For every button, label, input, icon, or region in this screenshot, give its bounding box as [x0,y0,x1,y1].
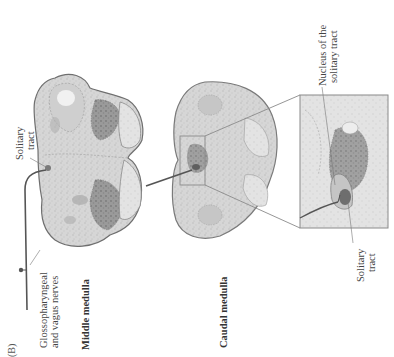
nerves-label: Glossopharyngeal and vagus nerves [38,272,60,348]
nerve-leader-line [30,250,40,265]
panel-label: (B) [6,344,17,357]
caudal-medulla-label: Caudal medulla [218,277,229,348]
middle-medulla-label: Middle medulla [80,279,91,350]
solitary-tract-figure: (B) Solitary tract Glossopharyngeal and … [0,0,394,357]
solitary-tract-label-middle: Solitary tract [14,127,36,160]
inset-magnified-view [300,95,388,228]
solitary-tract-label-inset: Solitary tract [355,249,377,282]
middle-medulla-section [34,74,143,246]
caudal-medulla-section [172,82,277,239]
nucleus-label: Nucleus of the solitary tract [317,25,339,86]
